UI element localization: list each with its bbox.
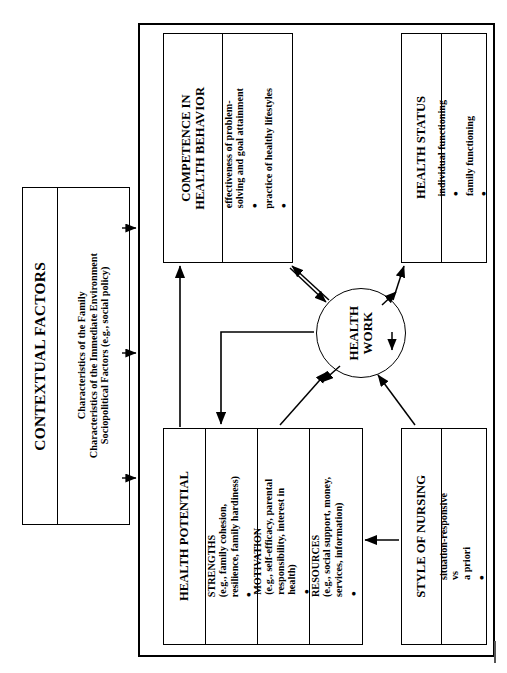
health-potential-box: HEALTH POTENTIAL STRENGTHS (e.g., family… (163, 428, 363, 645)
competence-items-cell: effectiveness of problem- solving and go… (223, 34, 292, 262)
health-work-circle: HEALTH WORK (316, 288, 406, 378)
health-work-label: HEALTH WORK (347, 306, 375, 360)
style-of-nursing-header: STYLE OF NURSING (414, 475, 428, 598)
health-potential-header-cell: HEALTH POTENTIAL (164, 429, 206, 644)
bullet-icon: • (475, 574, 490, 580)
page-edge-mark (494, 641, 496, 663)
health-potential-strengths-cell: STRENGTHS (e.g., family cohesion, resili… (206, 429, 258, 644)
contextual-factors-box: CONTEXTUAL FACTORS Characteristics of th… (22, 187, 130, 525)
competence-header: COMPETENCE IN HEALTH BEHAVIOR (179, 87, 207, 210)
contextual-factors-title-cell: CONTEXTUAL FACTORS (23, 188, 58, 524)
health-potential-header: HEALTH POTENTIAL (177, 471, 191, 601)
health-potential-resources-cell: RESOURCES (e.g., social support, money, … (310, 429, 362, 644)
competence-in-health-behavior-box: COMPETENCE IN HEALTH BEHAVIOR effectiven… (163, 33, 293, 263)
health-potential-item-1-text: MOTIVATION (e.g., self-efficacy, parenta… (252, 479, 298, 595)
contextual-factors-body-cell: Characteristics of the Family Characteri… (58, 188, 129, 524)
bullet-icon: • (277, 202, 292, 208)
health-potential-motivation-cell: MOTIVATION (e.g., self-efficacy, parenta… (258, 429, 310, 644)
competence-item-1-text: practice of healthy lifestyles (263, 88, 274, 209)
health-potential-item-2-text: RESOURCES (e.g., social support, money, … (310, 477, 344, 597)
health-work-diagram: CONTEXTUAL FACTORS Characteristics of th… (0, 0, 507, 673)
health-status-item-0-text: individual functioning (436, 100, 447, 197)
bullet-icon: • (347, 590, 362, 596)
contextual-factors-lines: Characteristics of the Family Characteri… (76, 253, 111, 458)
style-of-nursing-header-cell: STYLE OF NURSING (402, 429, 442, 644)
style-of-nursing-items-cell: situation-responsive vs a priori • (442, 429, 486, 644)
competence-item-0-text: effectiveness of problem- solving and go… (223, 88, 246, 208)
bullet-icon: • (248, 202, 263, 208)
competence-header-cell: COMPETENCE IN HEALTH BEHAVIOR (164, 34, 223, 262)
bullet-icon: • (477, 190, 492, 196)
health-status-items-cell: individual functioning • family function… (442, 34, 486, 262)
health-status-header: HEALTH STATUS (414, 96, 428, 199)
health-potential-item-0-text: STRENGTHS (e.g., family cohesion, resili… (206, 476, 240, 597)
style-of-nursing-item-0-text: situation-responsive vs a priori (438, 493, 472, 580)
health-status-item-1-text: family functioning (464, 116, 475, 196)
style-of-nursing-box: STYLE OF NURSING situation-responsive vs… (401, 428, 487, 645)
bullet-icon: • (449, 190, 464, 196)
health-status-box: HEALTH STATUS individual functioning • f… (401, 33, 487, 263)
contextual-factors-title: CONTEXTUAL FACTORS (31, 262, 48, 451)
